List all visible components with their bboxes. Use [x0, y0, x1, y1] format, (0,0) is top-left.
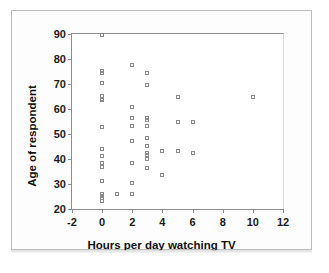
- scatter-point: [100, 81, 104, 85]
- plot-area: 2030405060708090 -2024681012: [71, 33, 284, 210]
- x-tick-mark: [72, 209, 73, 213]
- figure-panel: Age of respondent Hours per day watching…: [11, 10, 312, 250]
- scatter-point: [160, 149, 164, 153]
- scatter-point: [145, 118, 149, 122]
- scatter-point: [100, 154, 104, 158]
- scatter-point: [160, 173, 164, 177]
- y-tick-label: 60: [54, 103, 66, 115]
- x-tick-label: 6: [190, 216, 196, 228]
- scatter-point: [100, 165, 104, 169]
- y-tick-label: 30: [54, 178, 66, 190]
- x-tick-mark: [253, 209, 254, 213]
- x-tick-mark: [162, 209, 163, 213]
- x-tick-mark: [132, 209, 133, 213]
- scatter-point: [100, 98, 104, 102]
- y-tick-label: 70: [54, 78, 66, 90]
- scatter-point: [100, 125, 104, 129]
- x-tick-mark: [283, 209, 284, 213]
- scatter-point: [145, 157, 149, 161]
- x-tick-label: 10: [247, 216, 259, 228]
- scatter-point: [145, 166, 149, 170]
- scatter-point: [145, 124, 149, 128]
- scatter-point: [176, 120, 180, 124]
- scatter-point: [130, 116, 134, 120]
- x-tick-label: 2: [129, 216, 135, 228]
- y-tick-label: 40: [54, 153, 66, 165]
- scatter-point: [145, 136, 149, 140]
- scatter-point: [191, 151, 195, 155]
- y-tick-label: 50: [54, 128, 66, 140]
- scatter-point: [191, 120, 195, 124]
- x-tick-mark: [223, 209, 224, 213]
- scatter-point: [251, 95, 255, 99]
- scatter-point: [130, 181, 134, 185]
- scatter-point: [145, 83, 149, 87]
- y-tick-label: 80: [54, 53, 66, 65]
- scatter-point: [176, 95, 180, 99]
- page-scan-edge: [11, 250, 312, 253]
- x-tick-label: -2: [67, 216, 77, 228]
- y-tick-label: 20: [54, 203, 66, 215]
- scatter-point: [100, 161, 104, 165]
- scatter-points-layer: [72, 34, 283, 209]
- scatter-point: [115, 192, 119, 196]
- scatter-point: [100, 179, 104, 183]
- scatter-point: [100, 33, 104, 37]
- scatter-point: [130, 161, 134, 165]
- scatter-point: [130, 124, 134, 128]
- scatter-point: [100, 147, 104, 151]
- y-axis-title: Age of respondent: [26, 85, 38, 187]
- y-tick-label: 90: [54, 28, 66, 40]
- x-tick-label: 0: [99, 216, 105, 228]
- scatter-point: [176, 149, 180, 153]
- scatter-point: [130, 192, 134, 196]
- scatter-point: [145, 144, 149, 148]
- scatter-point: [130, 63, 134, 67]
- scatter-point: [100, 199, 104, 203]
- x-tick-mark: [102, 209, 103, 213]
- scatter-point: [145, 71, 149, 75]
- x-tick-label: 12: [277, 216, 289, 228]
- scatter-point: [100, 71, 104, 75]
- x-tick-mark: [193, 209, 194, 213]
- x-tick-label: 4: [159, 216, 165, 228]
- scatter-point: [130, 105, 134, 109]
- scatter-point: [130, 139, 134, 143]
- x-tick-label: 8: [220, 216, 226, 228]
